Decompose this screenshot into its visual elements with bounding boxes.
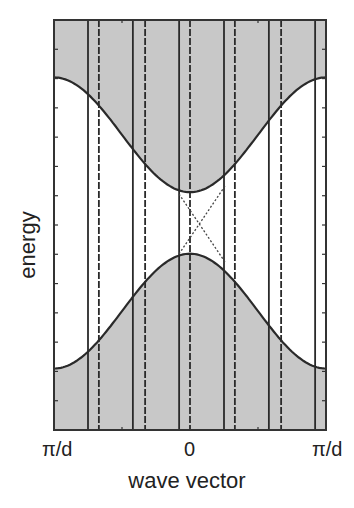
- x-tick-center: 0: [184, 438, 195, 461]
- y-axis-label: energy: [2, 216, 42, 276]
- x-tick-right: π/d: [312, 438, 342, 461]
- x-axis-label: wave vector: [0, 468, 354, 494]
- band-structure-plot: [0, 0, 354, 508]
- x-tick-left: π/d: [42, 438, 72, 461]
